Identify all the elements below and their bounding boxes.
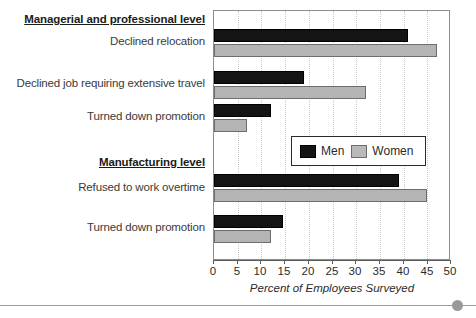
x-tick-label-45: 45 [421, 265, 434, 277]
x-axis-title: Percent of Employees Surveyed [213, 282, 451, 294]
x-tick-label-10: 10 [254, 265, 267, 277]
bar-men-turned-down-promotion-manufacturing [214, 215, 283, 228]
x-tick-label-5: 5 [234, 265, 240, 277]
chart-figure: Managerial and professional level Declin… [0, 0, 476, 290]
page-divider [0, 305, 476, 306]
group-heading-managerial: Managerial and professional level [24, 13, 205, 25]
x-tick-label-15: 15 [278, 265, 291, 277]
legend-entry-men: Men [300, 144, 344, 158]
legend-label-women: Women [372, 144, 413, 158]
x-tick-35 [379, 260, 380, 264]
group-heading-manufacturing: Manufacturing level [99, 156, 205, 168]
category-label-column: Managerial and professional level Declin… [0, 0, 209, 270]
x-tick-label-0: 0 [210, 265, 216, 277]
row-label-turned-down-promotion-managerial: Turned down promotion [87, 110, 205, 122]
x-tick-40 [403, 260, 404, 264]
legend-label-men: Men [321, 144, 344, 158]
x-tick-label-20: 20 [302, 265, 315, 277]
x-tick-5 [237, 260, 238, 264]
bar-women-refused-overtime [214, 189, 427, 202]
row-label-declined-relocation: Declined relocation [110, 35, 205, 47]
bar-men-refused-overtime [214, 174, 399, 187]
row-label-declined-job-travel: Declined job requiring extensive travel [17, 77, 205, 89]
x-tick-50 [450, 260, 451, 264]
x-tick-45 [427, 260, 428, 264]
x-tick-30 [355, 260, 356, 264]
x-tick-15 [284, 260, 285, 264]
bar-women-turned-down-promotion-managerial [214, 119, 247, 132]
chart-legend: Men Women [291, 136, 426, 166]
x-tick-label-25: 25 [326, 265, 339, 277]
x-tick-label-50: 50 [444, 265, 457, 277]
bar-women-turned-down-promotion-manufacturing [214, 230, 271, 243]
page-marker-dot-icon [452, 300, 463, 311]
x-tick-label-30: 30 [349, 265, 362, 277]
bar-men-declined-relocation [214, 29, 408, 42]
row-label-refused-overtime: Refused to work overtime [78, 181, 205, 193]
x-tick-10 [260, 260, 261, 264]
x-tick-label-35: 35 [373, 265, 386, 277]
x-tick-0 [213, 260, 214, 264]
bar-men-declined-job-travel [214, 71, 304, 84]
legend-swatch-men-icon [300, 145, 316, 158]
bar-women-declined-relocation [214, 44, 437, 57]
x-tick-25 [332, 260, 333, 264]
x-tick-20 [308, 260, 309, 264]
plot-area: Men Women [213, 10, 450, 260]
legend-entry-women: Women [351, 144, 413, 158]
legend-swatch-women-icon [351, 145, 367, 158]
x-tick-label-40: 40 [397, 265, 410, 277]
bar-men-turned-down-promotion-managerial [214, 104, 271, 117]
bar-women-declined-job-travel [214, 86, 366, 99]
row-label-turned-down-promotion-manufacturing: Turned down promotion [87, 221, 205, 233]
